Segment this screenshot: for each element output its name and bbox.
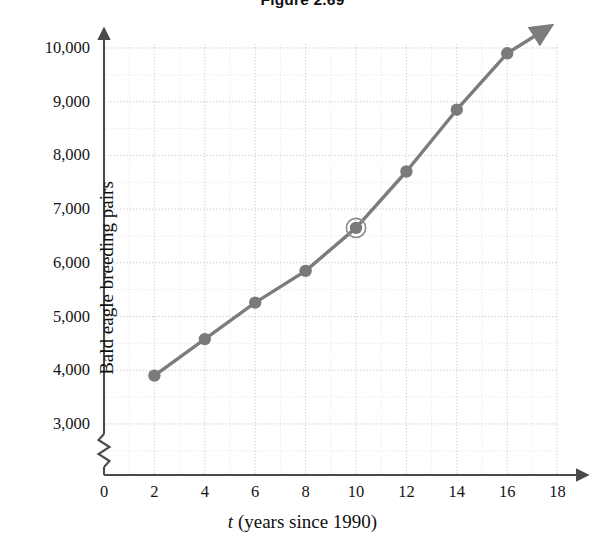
y-tick-label-9000: 9,000 <box>12 92 90 112</box>
data-series-line <box>154 35 536 376</box>
x-tick-label-2: 2 <box>150 482 158 502</box>
x-axis-title: t (years since 1990) <box>0 511 605 533</box>
chart-plot-area <box>0 0 605 556</box>
figure-container: Figure 2.69 <box>0 0 605 556</box>
data-point <box>501 47 513 59</box>
data-point <box>199 333 211 345</box>
axis-lines <box>99 38 579 475</box>
x-tick-label-18: 18 <box>549 482 566 502</box>
y-tick-label-7000: 7,000 <box>12 199 90 219</box>
x-tick-label-12: 12 <box>398 482 415 502</box>
x-tick-label-16: 16 <box>499 482 516 502</box>
y-axis-title: Bald eagle breeding pairs <box>96 181 118 375</box>
data-point-highlighted <box>350 222 362 234</box>
y-tick-label-6000: 6,000 <box>12 253 90 273</box>
y-tick-label-10000: 10,000 <box>12 38 90 58</box>
data-point <box>249 296 261 308</box>
x-tick-label-6: 6 <box>251 482 259 502</box>
x-axis-units: (years since 1990) <box>233 511 377 532</box>
y-tick-label-8000: 8,000 <box>12 145 90 165</box>
data-point <box>400 165 412 177</box>
x-tick-label-8: 8 <box>301 482 309 502</box>
y-tick-label-5000: 5,000 <box>12 307 90 327</box>
data-point <box>299 265 311 277</box>
data-point <box>148 369 160 381</box>
grid-minor <box>104 44 557 475</box>
y-tick-label-4000: 4,000 <box>12 360 90 380</box>
y-tick-label-3000: 3,000 <box>12 414 90 434</box>
x-tick-label-14: 14 <box>449 482 466 502</box>
x-tick-label-4: 4 <box>201 482 209 502</box>
x-tick-label-0: 0 <box>100 482 108 502</box>
x-tick-label-10: 10 <box>348 482 365 502</box>
data-point <box>451 104 463 116</box>
